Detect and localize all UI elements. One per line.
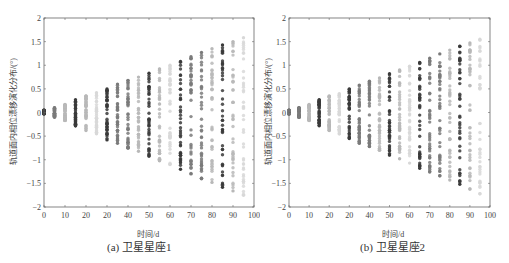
data-point	[200, 125, 203, 128]
data-point	[147, 128, 150, 131]
data-point	[210, 181, 213, 184]
data-point	[84, 94, 87, 97]
data-point	[428, 57, 431, 60]
data-point	[458, 45, 461, 48]
data-point	[147, 124, 150, 127]
data-point	[448, 94, 451, 97]
data-point	[458, 129, 461, 132]
data-point	[438, 145, 441, 148]
x-tick-label: 0	[287, 211, 291, 220]
data-point	[448, 170, 451, 173]
data-point	[408, 149, 411, 152]
data-point	[200, 153, 203, 156]
data-point	[210, 159, 213, 162]
data-point	[179, 121, 182, 124]
data-point	[478, 38, 481, 41]
data-point	[200, 104, 203, 107]
data-point	[95, 117, 98, 120]
data-point	[231, 88, 234, 91]
data-point	[318, 119, 321, 122]
data-point	[428, 82, 431, 85]
data-point	[84, 113, 87, 116]
data-point	[179, 93, 182, 96]
data-point	[448, 112, 451, 115]
data-point	[448, 121, 451, 124]
data-point	[458, 93, 461, 96]
data-point	[189, 128, 192, 131]
data-point	[105, 87, 108, 90]
data-point	[231, 174, 234, 177]
data-point	[428, 92, 431, 95]
data-point	[231, 125, 234, 128]
data-point	[458, 136, 461, 139]
data-point	[158, 86, 161, 89]
data-point	[458, 183, 461, 186]
data-point	[179, 64, 182, 67]
data-point	[458, 149, 461, 152]
x-tick-label: 50	[145, 211, 153, 220]
data-point	[158, 108, 161, 111]
data-point	[468, 187, 471, 190]
y-tick-label: −0.5	[26, 132, 41, 141]
data-point	[221, 119, 224, 122]
data-point	[418, 77, 421, 80]
data-point	[378, 76, 381, 79]
data-point	[458, 98, 461, 101]
data-point	[428, 145, 431, 148]
data-point	[210, 47, 213, 50]
data-point	[95, 108, 98, 111]
data-point	[221, 78, 224, 81]
data-point	[84, 98, 87, 101]
data-point	[478, 75, 481, 78]
data-point	[428, 164, 431, 167]
data-point	[448, 137, 451, 140]
data-point	[158, 94, 161, 97]
x-tick-label: 20	[82, 211, 90, 220]
data-point	[378, 149, 381, 152]
y-axis-label-a: 轨道面内相位漂移演化分布/(°)	[7, 52, 18, 172]
data-point	[200, 92, 203, 95]
data-point	[448, 175, 451, 178]
data-point	[468, 172, 471, 175]
data-point	[448, 84, 451, 87]
data-point	[84, 117, 87, 120]
data-point	[458, 71, 461, 74]
data-point	[147, 148, 150, 151]
data-point	[307, 119, 310, 122]
data-point	[242, 89, 245, 92]
data-point	[368, 141, 371, 144]
data-point	[84, 124, 87, 127]
data-point	[468, 126, 471, 129]
data-point	[408, 127, 411, 130]
data-point	[200, 107, 203, 110]
data-point	[307, 109, 310, 112]
data-point	[200, 75, 203, 78]
data-point	[388, 144, 391, 147]
data-point	[428, 154, 431, 157]
data-point	[242, 145, 245, 148]
data-point	[158, 138, 161, 141]
data-point	[179, 160, 182, 163]
data-point	[408, 98, 411, 101]
data-point	[200, 95, 203, 98]
data-point	[63, 103, 66, 106]
data-point	[242, 51, 245, 54]
data-point	[478, 83, 481, 86]
data-point	[458, 145, 461, 148]
data-point	[448, 72, 451, 75]
data-point	[210, 88, 213, 91]
data-point	[388, 95, 391, 98]
data-point	[458, 179, 461, 182]
data-point	[358, 105, 361, 108]
data-point	[408, 113, 411, 116]
data-point	[358, 142, 361, 145]
data-point	[158, 159, 161, 162]
data-point	[147, 112, 150, 115]
data-point	[221, 170, 224, 173]
data-point	[179, 60, 182, 63]
data-point	[137, 83, 140, 86]
x-tick-label: 80	[208, 211, 216, 220]
data-point	[378, 103, 381, 106]
data-point	[388, 127, 391, 130]
data-point	[189, 160, 192, 163]
